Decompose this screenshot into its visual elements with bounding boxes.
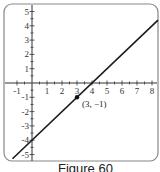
y-tick-label: -2 — [22, 107, 30, 117]
x-tick-label: 4 — [90, 86, 95, 96]
point-label: (3, −1) — [82, 99, 107, 109]
x-tick-label: 7 — [135, 86, 140, 96]
y-tick-label: -1 — [22, 92, 30, 102]
y-tick-label: 4 — [25, 21, 30, 31]
x-tick-label: 6 — [120, 86, 125, 96]
y-tick-label: 5 — [25, 7, 30, 17]
y-tick-label: -5 — [22, 150, 30, 160]
x-tick-label: 1 — [45, 86, 50, 96]
y-tick-label: 2 — [25, 49, 30, 59]
figure-caption: Figure 60 — [58, 162, 113, 172]
x-tick-label: 5 — [105, 86, 110, 96]
figure-plot: -11234567854321-1-2-3-4-5 (3, −1) — [0, 0, 160, 172]
y-tick-label: 1 — [25, 64, 30, 74]
data-point — [75, 95, 79, 99]
x-tick-label: 8 — [150, 86, 155, 96]
x-tick-label: 2 — [60, 86, 65, 96]
y-tick-label: 3 — [25, 35, 30, 45]
y-tick-label: -3 — [22, 121, 30, 131]
x-tick-label: -1 — [13, 86, 21, 96]
